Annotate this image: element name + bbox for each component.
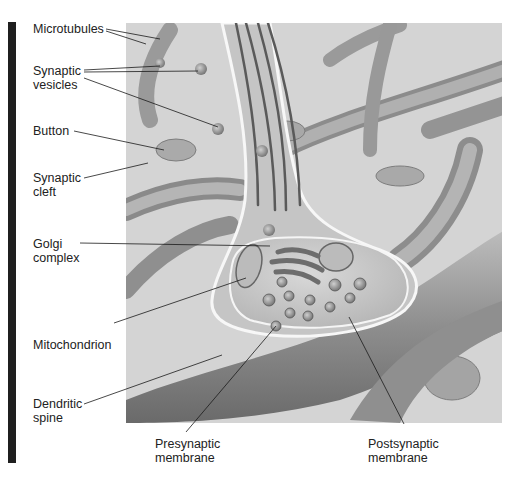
- label-golgi-complex: Golgi complex: [33, 237, 80, 265]
- label-postsynaptic-membrane: Postsynaptic membrane: [368, 437, 439, 465]
- label-presynaptic-membrane: Presynaptic membrane: [155, 437, 220, 465]
- label-dendritic-spine: Dendritic spine: [33, 397, 82, 425]
- label-microtubules: Microtubules: [33, 22, 104, 36]
- label-synaptic-cleft: Synaptic cleft: [33, 171, 81, 199]
- side-bar: [8, 22, 16, 463]
- label-button: Button: [33, 124, 69, 138]
- label-synaptic-vesicles: Synaptic vesicles: [33, 64, 81, 92]
- synapse-illustration: [126, 23, 502, 423]
- label-mitochondrion: Mitochondrion: [33, 338, 112, 352]
